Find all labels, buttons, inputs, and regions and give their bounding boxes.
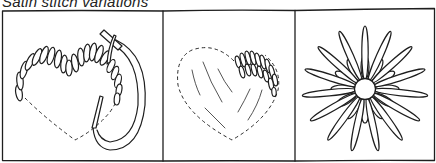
panel-1-satin-heart (14, 30, 145, 150)
satin-stitch-patch (234, 51, 278, 97)
panel-3-flower (302, 26, 428, 151)
flower-center (355, 79, 376, 100)
panel-2-padded-heart (178, 48, 279, 140)
dashed-heart-outline (25, 90, 122, 140)
guide-lines (192, 62, 262, 128)
satin-stitch-fill (14, 43, 122, 106)
figure-frame (0, 0, 436, 163)
